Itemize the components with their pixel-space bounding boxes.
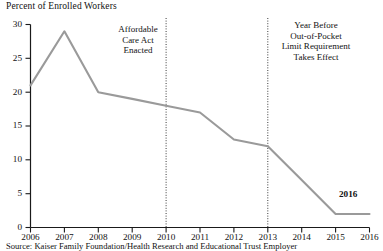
annotation-oop-line-3: Limit Requirement — [262, 41, 370, 52]
annotation-out-of-pocket-limit: Year Before Out-of-Pocket Limit Requirem… — [262, 20, 370, 62]
annotation-oop-line-4: Takes Effect — [262, 52, 370, 63]
ytick-label-15: 15 — [6, 120, 22, 130]
source-note: Source: Kaiser Family Foundation/Health … — [6, 241, 297, 251]
xtick-label-2016: 2016 — [353, 232, 383, 242]
data-point-label-2016: 2016 — [339, 189, 357, 199]
ytick-label-30: 30 — [6, 19, 22, 29]
ytick-label-10: 10 — [6, 154, 22, 164]
ytick-label-5: 5 — [6, 188, 22, 198]
ytick-label-25: 25 — [6, 53, 22, 63]
annotation-aca-line-2: Care Act — [96, 35, 180, 46]
annotation-affordable-care-act: Affordable Care Act Enacted — [96, 24, 180, 56]
y-axis-ticks — [26, 25, 31, 228]
annotation-oop-line-2: Out-of-Pocket — [262, 31, 370, 42]
ytick-label-0: 0 — [6, 222, 22, 232]
ytick-label-20: 20 — [6, 87, 22, 97]
annotation-aca-line-3: Enacted — [96, 45, 180, 56]
annotation-aca-line-1: Affordable — [96, 24, 180, 35]
xtick-label-2015: 2015 — [319, 232, 353, 242]
annotation-oop-line-1: Year Before — [262, 20, 370, 31]
